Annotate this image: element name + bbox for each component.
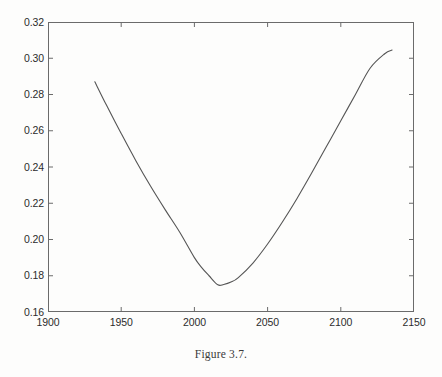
x-axis-tick-labels: 190019502000205021002150 bbox=[48, 316, 414, 332]
plot-canvas bbox=[48, 22, 414, 312]
y-tick-label: 0.32 bbox=[4, 17, 44, 28]
y-tick-label: 0.20 bbox=[4, 234, 44, 245]
plot-area bbox=[48, 22, 414, 312]
figure-container: 0.160.180.200.220.240.260.280.300.32 190… bbox=[0, 0, 442, 377]
x-tick-label: 2000 bbox=[164, 316, 224, 328]
x-tick-label: 2050 bbox=[238, 316, 298, 328]
x-tick-label: 1900 bbox=[18, 316, 78, 328]
axis-box bbox=[49, 23, 414, 312]
y-tick-label: 0.18 bbox=[4, 270, 44, 281]
y-tick-label: 0.30 bbox=[4, 53, 44, 64]
y-axis-tick-labels: 0.160.180.200.220.240.260.280.300.32 bbox=[0, 22, 44, 312]
x-tick-label: 2150 bbox=[384, 316, 442, 328]
x-tick-label: 2100 bbox=[311, 316, 371, 328]
tick-marks bbox=[48, 22, 414, 312]
data-curve bbox=[95, 50, 392, 285]
figure-caption: Figure 3.7. bbox=[0, 348, 442, 360]
y-tick-label: 0.26 bbox=[4, 125, 44, 136]
y-tick-label: 0.24 bbox=[4, 162, 44, 173]
y-tick-label: 0.22 bbox=[4, 198, 44, 209]
x-tick-label: 1950 bbox=[91, 316, 151, 328]
y-tick-label: 0.28 bbox=[4, 89, 44, 100]
